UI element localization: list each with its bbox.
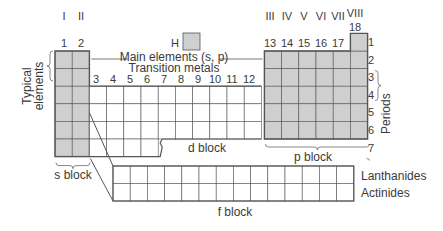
group-roman-I: I — [62, 10, 65, 22]
s-block-cell — [55, 69, 72, 87]
transition-metals-label: Transition metals — [129, 61, 220, 75]
d-block-cell — [227, 104, 244, 122]
p-block-cell — [264, 121, 281, 139]
period-5: 5 — [368, 106, 374, 118]
p-block-cell — [299, 86, 316, 104]
p-block-cell — [316, 104, 333, 122]
d-block-cell — [124, 104, 141, 122]
periodic-table-diagram: I II III IV V VI VII VIII 1 2 3 4 5 6 7 … — [0, 0, 443, 231]
d-block-cell — [193, 121, 210, 139]
p-block-cell — [316, 69, 333, 87]
f-block-cell — [302, 184, 319, 202]
f-block-label: f block — [218, 205, 254, 219]
f-block-cell — [233, 166, 250, 184]
f-block-cell — [319, 166, 336, 184]
p-block-cell — [282, 51, 299, 69]
s-block-cell — [72, 69, 89, 87]
p-block-cell — [299, 51, 316, 69]
period-3: 3 — [368, 71, 374, 83]
s-block-cell — [55, 86, 72, 104]
s-block-cell — [55, 104, 72, 122]
s-block-cell — [72, 104, 89, 122]
f-block-cell — [337, 166, 354, 184]
p-block-cell — [350, 104, 367, 122]
p-block-cell — [333, 121, 350, 139]
f-block-cell — [251, 166, 268, 184]
d-block-cell — [175, 121, 192, 139]
d-block-cell — [124, 86, 141, 104]
d-block-cell — [141, 104, 158, 122]
group-number-11: 11 — [226, 73, 237, 85]
group-roman-II: II — [78, 10, 84, 22]
s-block-cell — [55, 121, 72, 139]
f-block-connector-bottom — [90, 159, 113, 201]
p-block-cell — [299, 69, 316, 87]
s-block-cell — [72, 51, 89, 69]
p-block-cell — [282, 86, 299, 104]
hydrogen-label: H — [171, 37, 179, 49]
s-block-cell — [55, 51, 72, 69]
d-block-cell — [89, 86, 106, 104]
period-7: 7 — [368, 142, 374, 154]
group-number-18: 18 — [349, 21, 361, 33]
group-number-14: 14 — [281, 37, 293, 49]
f-block-cell — [285, 166, 302, 184]
p-block-cell — [299, 104, 316, 122]
d-block-cell — [141, 86, 158, 104]
p-block-cell — [316, 121, 333, 139]
p-block-cell — [264, 104, 281, 122]
f-block-cell — [113, 166, 130, 184]
p-block-label: p block — [294, 150, 333, 164]
f-block-cell — [182, 166, 199, 184]
group-number-17: 17 — [332, 37, 344, 49]
d-block-cell — [210, 121, 227, 139]
p-block-cell — [350, 86, 367, 104]
period-6: 6 — [368, 124, 374, 136]
p-block-cell — [350, 121, 367, 139]
group-roman-VIII: VIII — [347, 7, 364, 19]
f-block-cell — [302, 166, 319, 184]
d-block-cell — [141, 121, 158, 139]
f-block-cell — [113, 184, 130, 202]
d-block-cell — [210, 104, 227, 122]
d-block-cell — [244, 121, 261, 139]
d-block-cell — [210, 86, 227, 104]
d-block-cell — [107, 104, 124, 122]
f-block-cell — [165, 166, 182, 184]
p-block-cell — [333, 51, 350, 69]
s-block-cell — [72, 139, 89, 157]
f-block-cell — [216, 184, 233, 202]
d-block-cell — [107, 139, 124, 157]
group-number-12: 12 — [243, 73, 255, 85]
d-block-cell — [227, 121, 244, 139]
d-block-cell — [141, 139, 158, 157]
group-roman-IV: IV — [282, 10, 293, 22]
d-block-cell — [244, 86, 261, 104]
p-block-cell — [350, 51, 367, 69]
group-number-2: 2 — [78, 37, 84, 49]
period-4: 4 — [368, 89, 374, 101]
group-roman-VI: VI — [316, 10, 326, 22]
group-number-3: 3 — [93, 73, 99, 85]
d-block-cell — [158, 86, 175, 104]
f-block-cell — [130, 166, 147, 184]
d-block-cell — [175, 86, 192, 104]
p-block-cell — [299, 121, 316, 139]
d-block-cell — [193, 104, 210, 122]
f-block-cell — [251, 184, 268, 202]
f-block-cell — [233, 184, 250, 202]
f-block-cell — [268, 166, 285, 184]
group-number-4: 4 — [110, 73, 116, 85]
d-block-cell — [89, 121, 106, 139]
hydrogen-cell — [183, 33, 200, 50]
p-block-cell — [282, 104, 299, 122]
p-block-cell — [282, 69, 299, 87]
s-block-cell — [55, 139, 72, 157]
d-block-cell — [244, 104, 261, 122]
group-roman-VII: VII — [331, 10, 344, 22]
p-block-cell — [316, 51, 333, 69]
f-block-cell — [147, 184, 164, 202]
f-block-cell — [165, 184, 182, 202]
actinides-label: Actinides — [361, 186, 410, 200]
group-roman-III: III — [265, 10, 274, 22]
